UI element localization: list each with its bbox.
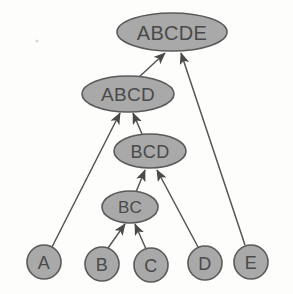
edge-bcd-to-abcd: [133, 113, 142, 134]
node-a[interactable]: A: [27, 245, 61, 279]
node-bc[interactable]: BC: [102, 191, 158, 223]
node-abcd[interactable]: ABCD: [82, 76, 174, 112]
node-d[interactable]: D: [188, 246, 222, 280]
node-e[interactable]: E: [234, 245, 268, 279]
edge-c-to-bc: [135, 224, 146, 249]
paper-speck: [35, 39, 38, 42]
diagram-canvas: ABCDEABCDBCDBCABCDE: [0, 0, 293, 294]
node-label-e: E: [245, 253, 257, 273]
node-c[interactable]: C: [134, 248, 168, 282]
edge-d-to-bcd: [157, 170, 198, 247]
node-label-bc: BC: [118, 198, 142, 217]
edge-bc-to-bcd: [136, 170, 145, 192]
node-bcd[interactable]: BCD: [114, 134, 186, 168]
edge-a-to-abcd: [52, 113, 120, 247]
node-label-d: D: [198, 254, 211, 274]
node-label-c: C: [144, 256, 157, 276]
node-label-abcd: ABCD: [101, 84, 155, 105]
node-label-b: B: [96, 255, 108, 275]
lattice-diagram: ABCDEABCDBCDBCABCDE: [0, 0, 293, 294]
node-abcde[interactable]: ABCDE: [117, 13, 227, 51]
node-label-abcde: ABCDE: [137, 22, 207, 44]
node-label-bcd: BCD: [131, 142, 170, 162]
node-b[interactable]: B: [85, 247, 119, 281]
nodes-layer: ABCDEABCDBCDBCABCDE: [27, 13, 268, 282]
edge-e-to-abcde: [181, 53, 245, 245]
node-label-a: A: [38, 253, 50, 273]
edge-abcd-to-abcde: [138, 53, 165, 78]
edge-b-to-bc: [108, 224, 125, 248]
